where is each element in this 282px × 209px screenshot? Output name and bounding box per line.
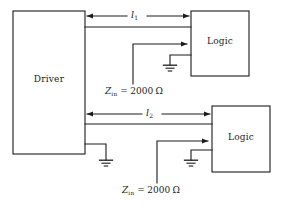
impedance-operator-top: = [118,86,131,96]
ground-logic-top-wire [170,55,191,65]
circuit-diagram: Driver Logic Logic l1 l2 Zin=2000Ω Zin=2… [0,0,282,209]
impedance-value-top: 2000 [130,86,153,96]
impedance-subscript-bottom: in [128,190,134,196]
ground-logic-bottom-wire [191,150,212,160]
driver-block-label: Driver [13,74,85,84]
logic-bottom-block-label: Logic [212,132,270,142]
impedance-unit-top: Ω [153,86,163,96]
circuit-schematic-canvas [0,0,282,209]
impedance-value-bottom: 2000 [147,185,170,195]
zin-top-pointer-path [133,44,187,84]
logic-top-block-label: Logic [191,36,249,46]
zin-bottom-pointer-path [157,141,208,183]
impedance-unit-bottom: Ω [170,185,180,195]
impedance-label-zin-top: Zin=2000Ω [105,86,163,96]
length-label-l2: l2 [146,107,153,118]
impedance-subscript-top: in [111,91,117,97]
impedance-operator-bottom: = [135,185,148,195]
length-label-l1: l1 [131,9,138,20]
impedance-label-zin-bottom: Zin=2000Ω [122,185,180,195]
length-label-l1-subscript: 1 [134,14,138,21]
length-label-l2-subscript: 2 [149,112,153,119]
ground-driver-wire [85,144,106,160]
